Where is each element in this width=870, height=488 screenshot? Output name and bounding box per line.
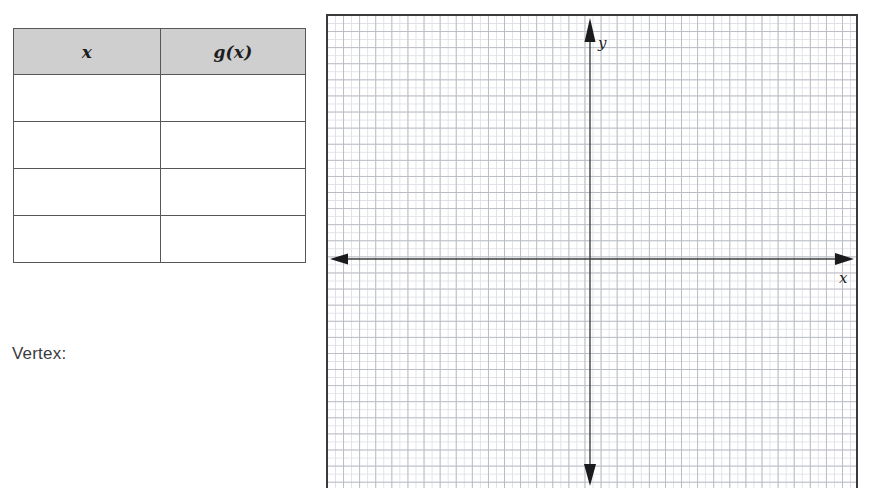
table-row xyxy=(14,75,306,122)
cell-gx[interactable] xyxy=(161,75,306,122)
table-row xyxy=(14,169,306,216)
cell-x[interactable] xyxy=(14,216,161,263)
y-axis-label: y xyxy=(598,34,606,52)
value-table-body xyxy=(14,75,306,263)
cell-x[interactable] xyxy=(14,169,161,216)
cell-gx[interactable] xyxy=(161,169,306,216)
table-row xyxy=(14,216,306,263)
table-header-row: x g(x) xyxy=(14,29,306,75)
cell-gx[interactable] xyxy=(161,216,306,263)
x-axis-label: x xyxy=(839,269,847,287)
coordinate-plane[interactable]: y x xyxy=(326,14,858,488)
graph-axes xyxy=(328,16,856,488)
cell-x[interactable] xyxy=(14,75,161,122)
left-arrow-icon xyxy=(330,253,348,264)
table-row xyxy=(14,122,306,169)
column-header-gx: g(x) xyxy=(161,29,306,75)
cell-x[interactable] xyxy=(14,122,161,169)
value-table-header: x g(x) xyxy=(14,29,306,75)
up-arrow-icon xyxy=(585,18,596,42)
cell-gx[interactable] xyxy=(161,122,306,169)
vertex-prompt-label: Vertex: xyxy=(12,344,66,364)
column-header-x: x xyxy=(14,29,161,75)
down-arrow-icon xyxy=(584,464,596,486)
right-arrow-icon xyxy=(835,253,854,265)
value-table: x g(x) xyxy=(13,28,306,263)
